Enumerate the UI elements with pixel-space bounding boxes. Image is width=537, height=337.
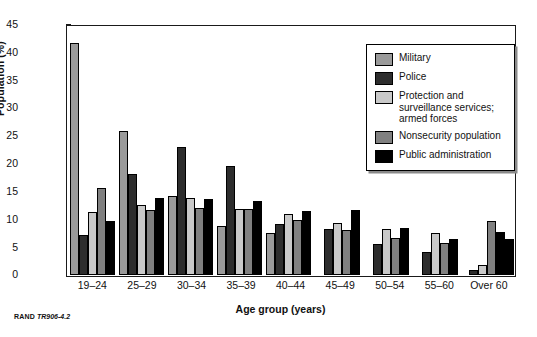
- bar: [235, 209, 244, 276]
- bar: [400, 228, 409, 276]
- footer-publisher: RAND: [14, 313, 35, 320]
- bar-group: [68, 25, 117, 275]
- bar: [469, 270, 478, 276]
- bar: [382, 229, 391, 276]
- bar: [119, 131, 128, 276]
- x-tick-label: 45–49: [315, 279, 365, 291]
- figure-container: Population (%) 051015202530354045 19–242…: [0, 0, 537, 337]
- legend-item: Nonsecurity population: [375, 130, 506, 144]
- bar: [97, 188, 106, 275]
- chart-legend: MilitaryPoliceProtection and surveillanc…: [366, 44, 515, 171]
- legend-swatch: [375, 91, 393, 104]
- bar: [70, 43, 79, 276]
- x-axis-ticks: 19–2425–2930–3435–3940–4445–4950–5455–60…: [68, 279, 514, 291]
- y-tick-label: 5: [0, 242, 18, 253]
- bar-group: [117, 25, 166, 275]
- y-tick-label: 20: [0, 158, 18, 169]
- bar: [342, 230, 351, 276]
- bar: [505, 239, 514, 275]
- bar: [333, 223, 342, 276]
- bar: [88, 212, 97, 275]
- x-tick-label: 35–39: [216, 279, 266, 291]
- footer-figure-number: TR906-4.2: [37, 313, 70, 320]
- legend-item: Public administration: [375, 149, 506, 163]
- bar: [440, 243, 449, 276]
- bar: [226, 166, 235, 275]
- x-tick-label: 25–29: [117, 279, 167, 291]
- bar: [79, 235, 88, 275]
- bar: [284, 214, 293, 275]
- y-tick-label: 35: [0, 75, 18, 86]
- x-tick-label: 50–54: [365, 279, 415, 291]
- bar: [244, 209, 253, 275]
- bar: [186, 198, 195, 276]
- legend-swatch: [375, 150, 393, 163]
- y-tick-label: 15: [0, 186, 18, 197]
- bar: [266, 233, 275, 276]
- bar: [128, 174, 137, 276]
- bar: [137, 205, 146, 275]
- legend-item: Protection and surveillance services; ar…: [375, 90, 506, 125]
- legend-label: Nonsecurity population: [399, 130, 501, 142]
- bar: [351, 210, 360, 276]
- y-tick-label: 0: [0, 269, 18, 280]
- legend-label: Police: [399, 71, 426, 83]
- bar: [478, 265, 487, 276]
- bar: [253, 201, 262, 275]
- bar: [373, 244, 382, 275]
- y-axis-title: Population (%): [0, 0, 6, 116]
- bar: [217, 226, 226, 275]
- bar-group: [264, 25, 313, 275]
- x-tick-label: 40–44: [266, 279, 316, 291]
- legend-label: Protection and surveillance services; ar…: [399, 90, 506, 125]
- bar: [177, 147, 186, 276]
- y-tick-label: 25: [0, 130, 18, 141]
- bar: [146, 210, 155, 276]
- figure-footer: RAND TR906-4.2: [14, 313, 70, 320]
- legend-swatch: [375, 53, 393, 66]
- bar: [496, 232, 505, 275]
- y-tick-label: 10: [0, 214, 18, 225]
- bar: [324, 229, 333, 276]
- legend-label: Public administration: [399, 149, 491, 161]
- x-tick-label: 19–24: [68, 279, 118, 291]
- bar: [204, 199, 213, 275]
- x-tick-label: Over 60: [464, 279, 514, 291]
- bar: [106, 221, 115, 276]
- x-tick-label: 55–60: [415, 279, 465, 291]
- bar: [302, 211, 311, 275]
- x-axis-title: Age group (years): [0, 303, 537, 315]
- legend-swatch: [375, 72, 393, 85]
- bar: [168, 196, 177, 276]
- bar-group: [215, 25, 264, 275]
- bar: [422, 252, 431, 275]
- bar: [275, 224, 284, 276]
- legend-swatch: [375, 131, 393, 144]
- legend-label: Military: [399, 52, 431, 64]
- bar: [195, 208, 204, 276]
- bar: [155, 198, 164, 276]
- legend-item: Military: [375, 52, 506, 66]
- bar: [449, 239, 458, 276]
- y-tick-label: 40: [0, 47, 18, 58]
- y-tick-label: 45: [0, 19, 18, 30]
- x-tick-label: 30–34: [167, 279, 217, 291]
- bar-group: [166, 25, 215, 275]
- bar-group: [313, 25, 362, 275]
- bar: [431, 233, 440, 276]
- y-tick-label: 30: [0, 102, 18, 113]
- bar: [487, 221, 496, 276]
- bar: [293, 220, 302, 275]
- bar: [391, 238, 400, 275]
- legend-item: Police: [375, 71, 506, 85]
